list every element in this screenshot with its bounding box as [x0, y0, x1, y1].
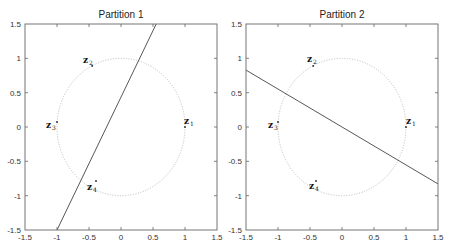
svg-text:1: 1: [404, 233, 409, 242]
svg-text:0.5: 0.5: [10, 89, 22, 98]
figure: Partition 1 -1.5 -1 -0.5 0: [0, 0, 454, 245]
chart-title: Partition 1: [98, 9, 143, 20]
svg-text:-0.5: -0.5: [82, 233, 96, 242]
chart-title: Partition 2: [319, 9, 364, 20]
svg-text:0: 0: [238, 123, 243, 132]
svg-text:1: 1: [17, 54, 22, 63]
x-tick-labels: -1.5 -1 -0.5 0 0.5 1 1.5: [239, 233, 444, 242]
point-z4: z 4: [87, 180, 97, 193]
svg-text:z: z: [309, 181, 314, 191]
point-z4: z 4: [309, 180, 319, 192]
svg-text:-0.5: -0.5: [228, 157, 242, 166]
svg-text:-1: -1: [274, 233, 282, 242]
svg-text:z: z: [268, 120, 273, 130]
point-z2: z 2: [307, 54, 317, 67]
svg-text:3: 3: [52, 124, 56, 131]
svg-text:0: 0: [119, 233, 124, 242]
svg-text:-1.5: -1.5: [7, 226, 21, 235]
chart-partition-2: Partition 2 -1.5 -1 -0.5 0 0.5 1 1: [228, 9, 444, 242]
svg-text:1.5: 1.5: [432, 233, 444, 242]
svg-text:0: 0: [340, 233, 345, 242]
svg-text:-0.5: -0.5: [7, 157, 21, 166]
svg-text:2: 2: [313, 58, 317, 65]
svg-text:z: z: [307, 54, 312, 64]
svg-text:0.5: 0.5: [231, 89, 243, 98]
separating-line: [57, 24, 156, 230]
svg-text:1: 1: [238, 54, 243, 63]
svg-text:-1.5: -1.5: [228, 226, 242, 235]
point-z1: z 1: [184, 116, 194, 128]
unit-circle: [57, 58, 185, 195]
svg-text:1.5: 1.5: [231, 20, 243, 29]
svg-text:z: z: [46, 120, 51, 130]
chart-partition-1: Partition 1 -1.5 -1 -0.5 0: [7, 9, 223, 242]
svg-text:1: 1: [183, 233, 188, 242]
svg-text:z: z: [83, 55, 88, 65]
point-z3: z 3: [46, 120, 58, 131]
svg-text:0: 0: [17, 123, 22, 132]
svg-text:1.5: 1.5: [10, 20, 22, 29]
svg-text:4: 4: [315, 185, 319, 192]
svg-text:0.5: 0.5: [147, 233, 159, 242]
svg-text:4: 4: [93, 186, 97, 193]
svg-text:z: z: [406, 116, 411, 126]
svg-text:-1: -1: [14, 192, 22, 201]
svg-text:0.5: 0.5: [368, 233, 380, 242]
point-z1: z 1: [405, 116, 416, 128]
svg-text:-1: -1: [235, 192, 243, 201]
y-tick-labels: 1.5 1 0.5 0 -0.5 -1 -1.5: [228, 20, 242, 235]
point-z3: z 3: [268, 120, 279, 131]
point-z2: z 2: [83, 55, 93, 67]
svg-text:-0.5: -0.5: [303, 233, 317, 242]
svg-text:2: 2: [89, 59, 93, 66]
y-tick-labels: 1.5 1 0.5 0 -0.5 -1 -1.5: [7, 20, 21, 235]
svg-text:3: 3: [274, 124, 278, 131]
svg-text:1: 1: [412, 120, 416, 127]
svg-text:z: z: [87, 182, 92, 192]
svg-text:1: 1: [190, 120, 194, 127]
svg-text:z: z: [184, 116, 189, 126]
x-tick-labels: -1.5 -1 -0.5 0 0.5 1 1.5: [18, 233, 223, 242]
svg-text:1.5: 1.5: [211, 233, 223, 242]
svg-text:-1: -1: [53, 233, 61, 242]
